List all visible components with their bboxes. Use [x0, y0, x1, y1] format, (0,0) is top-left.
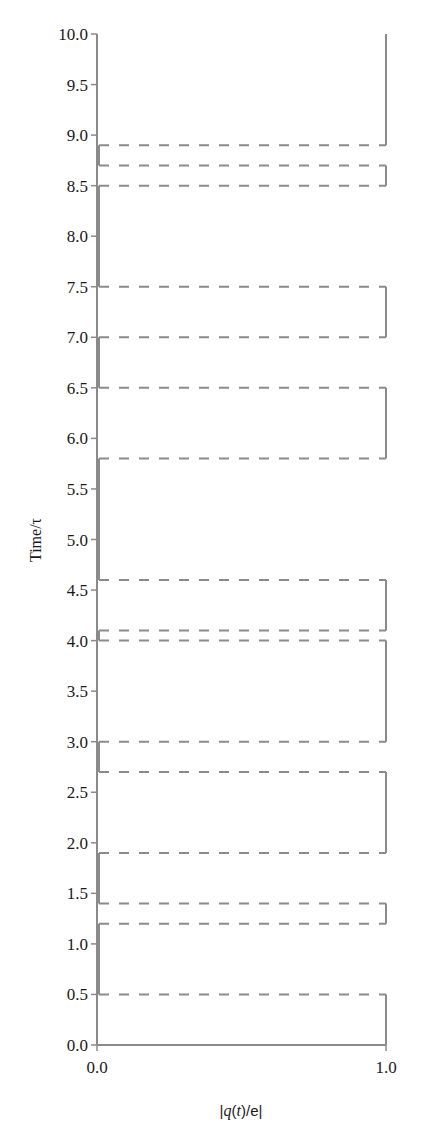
- x-axis-title: |q(t)/e|: [220, 1102, 263, 1120]
- signal-trace: [99, 34, 386, 1045]
- chart-plot: 0.00.51.01.52.02.53.03.54.04.55.05.56.06…: [0, 0, 427, 1132]
- y-tick-label: 0.0: [67, 1036, 88, 1055]
- y-tick-label: 5.5: [67, 480, 88, 499]
- y-tick-label: 9.0: [67, 126, 88, 145]
- y-tick-label: 6.5: [67, 379, 88, 398]
- y-tick-label: 0.5: [67, 985, 88, 1004]
- y-tick-label: 4.0: [67, 632, 88, 651]
- y-tick-label: 8.5: [67, 177, 88, 196]
- y-tick-label: 10.0: [58, 25, 88, 44]
- y-tick-label: 2.5: [67, 783, 88, 802]
- x-axis-ticks: 0.01.0: [86, 1045, 396, 1077]
- y-tick-label: 5.0: [67, 531, 88, 550]
- y-tick-label: 3.5: [67, 682, 88, 701]
- y-tick-label: 3.0: [67, 733, 88, 752]
- y-tick-label: 6.0: [67, 429, 88, 448]
- y-axis-title: Time/τ: [27, 517, 44, 562]
- y-tick-label: 7.0: [67, 328, 88, 347]
- y-tick-label: 1.0: [67, 935, 88, 954]
- y-tick-label: 1.5: [67, 884, 88, 903]
- y-tick-label: 7.5: [67, 278, 88, 297]
- x-tick-label: 0.0: [86, 1058, 107, 1077]
- x-tick-label: 1.0: [375, 1058, 396, 1077]
- y-tick-label: 8.0: [67, 227, 88, 246]
- y-tick-label: 4.5: [67, 581, 88, 600]
- y-tick-label: 2.0: [67, 834, 88, 853]
- y-tick-label: 9.5: [67, 76, 88, 95]
- y-axis-ticks: 0.00.51.01.52.02.53.03.54.04.55.05.56.06…: [58, 25, 97, 1055]
